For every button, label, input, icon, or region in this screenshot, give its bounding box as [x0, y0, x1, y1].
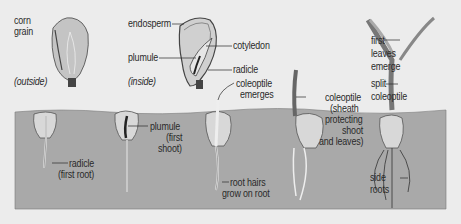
- stage-4-and-leaves-label: and leaves): [319, 136, 363, 147]
- inside-view-label: (inside): [128, 76, 156, 87]
- corn-grain-label: corngrain: [14, 15, 33, 37]
- stage-5-side-label: side: [370, 172, 386, 183]
- stage-3-grow-on-root-label: grow on root: [222, 188, 270, 199]
- stage-5-emerge-label: emerge: [371, 61, 400, 72]
- stage-5-roots-label: roots: [370, 184, 389, 195]
- stage-2-shoot-label: shoot): [158, 143, 182, 154]
- endosperm-label: endosperm: [128, 18, 171, 29]
- stage-5-coleoptile-label: coleoptile: [371, 91, 407, 102]
- corn-grain-inside-icon: [179, 18, 216, 89]
- corn-grain-outside-icon: [52, 18, 88, 87]
- germination-diagram: corngrain (outside) endosperm cotyledon …: [0, 0, 461, 224]
- stage-3-emerges-label: emerges: [240, 89, 274, 100]
- cotyledon-label: cotyledon: [233, 40, 270, 51]
- stage-5-leaves-label: leaves: [371, 48, 396, 59]
- stage-5-first-label: first: [371, 35, 385, 46]
- stage-1-first-root-label: (first root): [58, 169, 94, 180]
- radicle-label: radicle: [233, 64, 258, 75]
- plumule-label: plumule: [128, 52, 158, 63]
- stage-5-split-label: split: [371, 78, 386, 89]
- outside-view-label: (outside): [14, 76, 47, 87]
